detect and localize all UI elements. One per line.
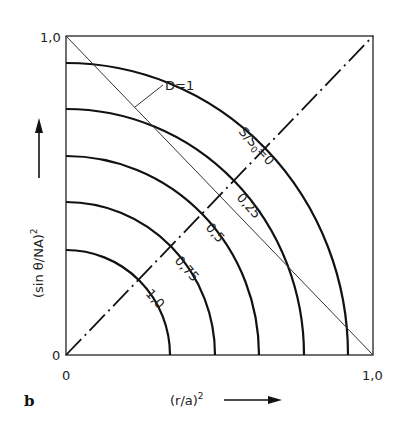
x-axis-arrow-icon (268, 396, 282, 404)
panel-label: b (24, 392, 35, 410)
d1-label: D=1 (165, 78, 194, 93)
dashdot-label: S/S0=0 (234, 124, 277, 169)
y-axis-label-group: (sin θ/NA)2 (29, 228, 46, 298)
x-tick-zero: 0 (62, 368, 70, 383)
y-tick-zero: 0 (52, 348, 60, 363)
y-tick-top: 1,0 (40, 30, 61, 45)
d1-leader (135, 85, 163, 107)
curve-label-025: 0,25 (234, 190, 265, 222)
curve-label-075: 0,75 (172, 253, 203, 285)
x-tick-right: 1,0 (362, 368, 383, 383)
y-axis-arrow-icon (35, 118, 43, 133)
y-axis-label: (sin θ/NA)2 (29, 228, 46, 298)
x-axis-label: (r/a)2 (170, 391, 204, 408)
figure: D=1 S/S0=0 0,25 0,5 0,75 1,0 1,0 0 0 1,0… (0, 0, 399, 425)
dashdot-label-main: S/S0=0 (234, 124, 277, 169)
